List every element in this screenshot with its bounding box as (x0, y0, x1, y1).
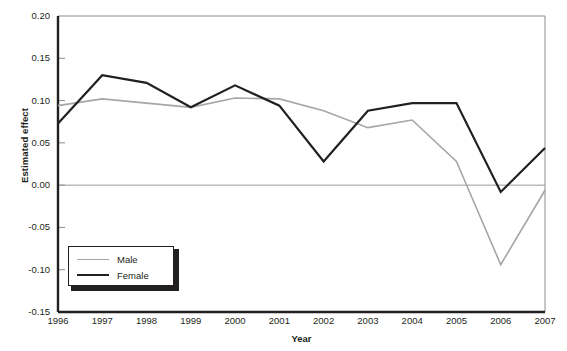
series-line-male (58, 98, 545, 265)
legend-label-female: Female (117, 270, 149, 281)
legend-item-male: Male (77, 251, 138, 267)
chart-figure: Estimated effect Year 0.200.150.100.050.… (0, 0, 567, 351)
legend-swatch-female (77, 274, 109, 276)
legend-swatch-male (77, 259, 109, 260)
legend-label-male: Male (117, 254, 138, 265)
legend-item-female: Female (77, 267, 149, 283)
chart-legend: Male Female (68, 246, 174, 286)
plot-area (0, 0, 567, 351)
series-line-female (58, 75, 545, 192)
